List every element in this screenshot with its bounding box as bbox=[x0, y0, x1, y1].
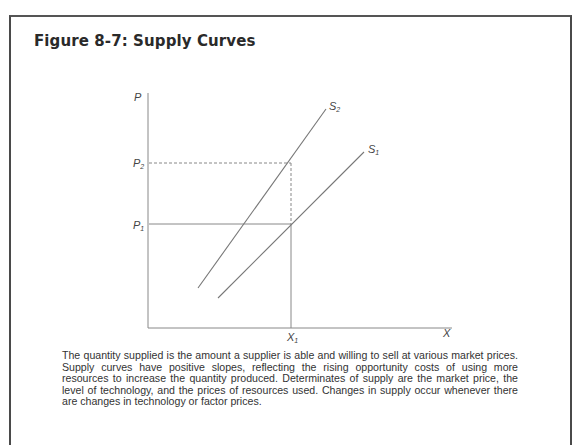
figure-caption: The quantity supplied is the amount a su… bbox=[62, 350, 518, 408]
s1-label: S1 bbox=[368, 143, 379, 156]
x-axis-label: X bbox=[442, 327, 451, 339]
p1-label: P1 bbox=[133, 219, 144, 232]
y-axis-label: P bbox=[134, 91, 142, 103]
x1-label: X1 bbox=[286, 331, 298, 344]
s2-label: S2 bbox=[329, 100, 340, 113]
s2-curve bbox=[198, 109, 326, 288]
p2-label: P2 bbox=[133, 157, 144, 170]
